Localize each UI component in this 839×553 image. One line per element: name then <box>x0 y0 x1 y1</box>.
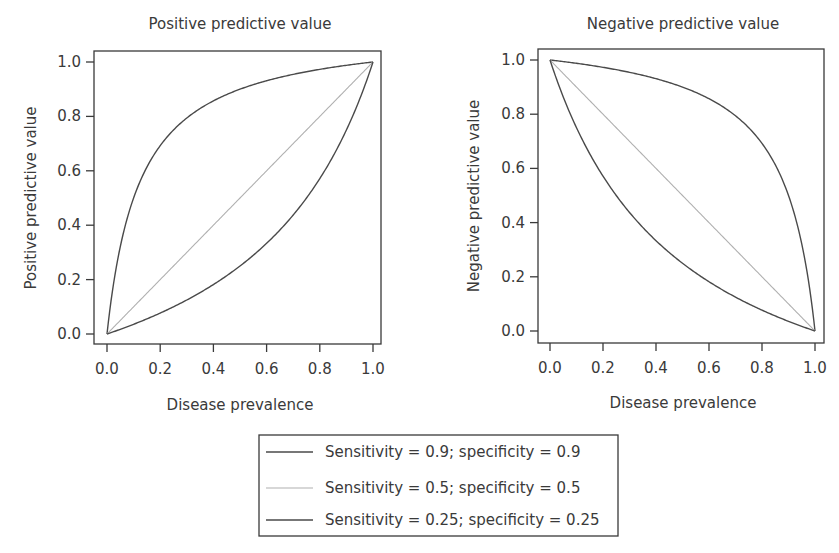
y-tick-label: 0.4 <box>501 214 525 232</box>
npv-panel: Negative predictive value 0.00.20.40.60.… <box>465 15 827 412</box>
npv-y-axis: 0.00.20.40.60.81.0 <box>501 51 538 340</box>
y-tick-label: 1.0 <box>501 51 525 69</box>
x-tick-label: 0.6 <box>255 360 279 378</box>
ppv-x-label: Disease prevalence <box>167 396 314 414</box>
ppv-y-label: Positive predictive value <box>22 106 40 289</box>
ppv-title: Positive predictive value <box>148 15 331 33</box>
x-tick-label: 1.0 <box>803 359 827 377</box>
legend-item: Sensitivity = 0.25; specificity = 0.25 <box>266 511 600 529</box>
y-tick-label: 0.0 <box>501 322 525 340</box>
x-tick-label: 0.8 <box>750 359 774 377</box>
npv-lines <box>550 60 815 331</box>
x-tick-label: 0.8 <box>308 360 332 378</box>
npv-y-label: Negative predictive value <box>465 100 483 293</box>
x-tick-label: 0.0 <box>538 359 562 377</box>
npv-x-axis: 0.00.20.40.60.81.0 <box>538 343 827 377</box>
x-tick-label: 0.2 <box>591 359 615 377</box>
x-tick-label: 0.4 <box>644 359 668 377</box>
legend-label: Sensitivity = 0.9; specificity = 0.9 <box>325 443 580 461</box>
legend-item: Sensitivity = 0.9; specificity = 0.9 <box>266 443 580 461</box>
y-tick-label: 0.6 <box>501 159 525 177</box>
y-tick-label: 0.2 <box>501 268 525 286</box>
x-tick-label: 0.2 <box>148 360 172 378</box>
legend-label: Sensitivity = 0.25; specificity = 0.25 <box>325 511 600 529</box>
ppv-y-axis: 0.00.20.40.60.81.0 <box>57 53 94 343</box>
series-line <box>550 60 815 331</box>
x-tick-label: 0.4 <box>201 360 225 378</box>
legend-label: Sensitivity = 0.5; specificity = 0.5 <box>325 479 580 497</box>
npv-plot-frame <box>538 49 824 343</box>
y-tick-label: 0.6 <box>57 162 81 180</box>
ppv-panel: Positive predictive value 0.00.20.40.60.… <box>22 15 385 414</box>
y-tick-label: 0.0 <box>57 325 81 343</box>
npv-x-label: Disease prevalence <box>610 394 757 412</box>
x-tick-label: 1.0 <box>361 360 385 378</box>
ppv-plot-frame <box>94 51 381 344</box>
y-tick-label: 0.2 <box>57 271 81 289</box>
ppv-lines <box>107 62 373 334</box>
legend: Sensitivity = 0.9; specificity = 0.9 Sen… <box>259 435 618 536</box>
ppv-x-axis: 0.00.20.40.60.81.0 <box>95 344 385 378</box>
x-tick-label: 0.6 <box>697 359 721 377</box>
x-tick-label: 0.0 <box>95 360 119 378</box>
legend-item: Sensitivity = 0.5; specificity = 0.5 <box>266 479 580 497</box>
y-tick-label: 0.8 <box>57 107 81 125</box>
y-tick-label: 0.4 <box>57 216 81 234</box>
npv-title: Negative predictive value <box>587 15 780 33</box>
y-tick-label: 1.0 <box>57 53 81 71</box>
series-line <box>107 62 373 334</box>
y-tick-label: 0.8 <box>501 105 525 123</box>
